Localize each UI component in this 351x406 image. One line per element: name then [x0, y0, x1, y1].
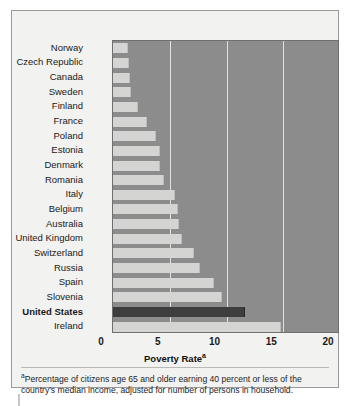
- plot-area: [112, 40, 339, 333]
- bar: [113, 146, 160, 156]
- bar: [113, 58, 129, 68]
- x-tick-0: 0: [86, 336, 116, 347]
- bar: [113, 204, 178, 214]
- bar: [113, 307, 245, 317]
- x-axis-title-superscript: a: [202, 352, 206, 359]
- chart-frame: NorwayCzech RepublicCanadaSwedenFinlandF…: [11, 10, 339, 388]
- x-tick-10: 10: [200, 336, 230, 347]
- gridline-15: [283, 41, 284, 332]
- category-label: Russia: [0, 263, 83, 273]
- bar: [113, 292, 222, 302]
- category-label: Italy: [0, 189, 83, 199]
- gridline-10: [227, 41, 228, 332]
- category-label: Spain: [0, 277, 83, 287]
- bar: [113, 117, 147, 127]
- category-label: United States: [0, 307, 83, 317]
- bar: [113, 248, 194, 258]
- bar: [113, 131, 156, 141]
- bar: [113, 102, 138, 112]
- bar: [113, 87, 131, 97]
- category-label: Belgium: [0, 204, 83, 214]
- bar: [113, 234, 182, 244]
- bar: [113, 278, 214, 288]
- category-label: Sweden: [0, 87, 83, 97]
- figure: NorwayCzech RepublicCanadaSwedenFinlandF…: [0, 0, 351, 406]
- category-label: Slovenia: [0, 292, 83, 302]
- category-label: Czech Republic: [0, 57, 83, 67]
- footnote-text: Percentage of citizens age 65 and older …: [21, 374, 302, 395]
- category-label: Ireland: [0, 321, 83, 331]
- bar: [113, 43, 128, 53]
- bar: [113, 322, 281, 332]
- category-label: Estonia: [0, 145, 83, 155]
- category-label: Poland: [0, 131, 83, 141]
- caption-accent-bar: [18, 394, 20, 406]
- category-label: France: [0, 116, 83, 126]
- x-tick-20: 20: [313, 336, 343, 347]
- footnote: aPercentage of citizens age 65 and older…: [21, 370, 333, 396]
- footnote-divider: [21, 367, 329, 368]
- x-axis-title: Poverty Ratea: [12, 352, 338, 364]
- gridline-5: [170, 41, 171, 332]
- bar: [113, 175, 164, 185]
- x-axis-title-text: Poverty Rate: [144, 353, 202, 364]
- category-label: Switzerland: [0, 248, 83, 258]
- category-label: Canada: [0, 72, 83, 82]
- bar: [113, 161, 160, 171]
- bar: [113, 190, 175, 200]
- category-label: Australia: [0, 219, 83, 229]
- bar: [113, 219, 179, 229]
- bar: [113, 263, 200, 273]
- category-label: Denmark: [0, 160, 83, 170]
- x-tick-5: 5: [143, 336, 173, 347]
- bar: [113, 73, 130, 83]
- category-label: Romania: [0, 175, 83, 185]
- category-label: Norway: [0, 43, 83, 53]
- category-label: Finland: [0, 101, 83, 111]
- category-label: United Kingdom: [0, 233, 83, 243]
- x-tick-15: 15: [256, 336, 286, 347]
- caption-strip-cutoff: [28, 396, 328, 406]
